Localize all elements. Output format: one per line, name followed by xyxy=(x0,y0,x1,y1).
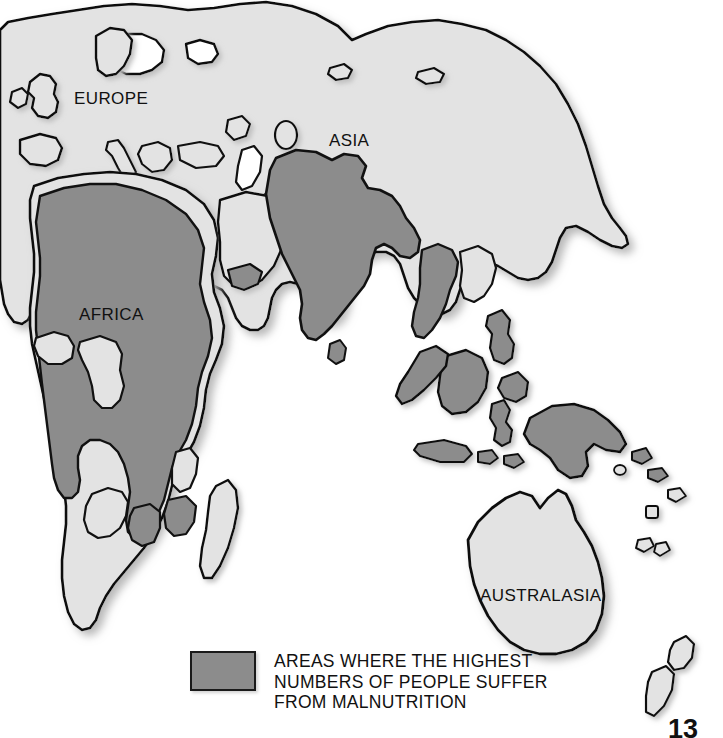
sri-lanka-highlight xyxy=(328,340,346,364)
legend-caption: AREAS WHERE THE HIGHEST NUMBERS OF PEOPL… xyxy=(274,651,548,713)
ireland xyxy=(10,88,28,108)
pacific-island-1 xyxy=(646,506,658,518)
map-legend: AREAS WHERE THE HIGHEST NUMBERS OF PEOPL… xyxy=(190,651,548,713)
botswana-highlight-inset xyxy=(128,504,160,546)
world-map-graphic xyxy=(0,0,723,738)
legend-caption-line-1: AREAS WHERE THE HIGHEST xyxy=(274,651,548,672)
iberia xyxy=(20,134,62,166)
island-a xyxy=(275,121,297,149)
island-e xyxy=(226,116,250,140)
white-sea xyxy=(186,40,218,64)
region-label-africa: AFRICA xyxy=(79,305,144,325)
page-number: 13 xyxy=(668,714,698,738)
region-label-asia: ASIA xyxy=(329,131,369,151)
legend-caption-line-2: NUMBERS OF PEOPLE SUFFER xyxy=(274,672,548,693)
legend-caption-line-3: FROM MALNUTRITION xyxy=(274,692,548,713)
legend-swatch-malnutrition xyxy=(190,651,256,691)
map-page: EUROPE ASIA AFRICA AUSTRALASIA AREAS WHE… xyxy=(0,0,723,738)
island-d xyxy=(416,68,444,84)
pacific-island-4 xyxy=(614,465,626,475)
region-label-australasia: AUSTRALASIA xyxy=(480,586,602,606)
region-label-europe: EUROPE xyxy=(74,89,148,109)
island-c xyxy=(328,64,352,80)
